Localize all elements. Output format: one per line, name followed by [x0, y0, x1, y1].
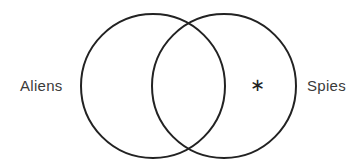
asterisk-marker-icon: ∗	[250, 76, 265, 94]
aliens-set-label: Aliens	[20, 78, 63, 93]
spies-set-label: Spies	[307, 78, 346, 93]
